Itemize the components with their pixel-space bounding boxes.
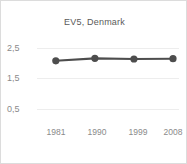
plot-area (1, 1, 187, 164)
data-point-2008 (169, 55, 176, 62)
data-point-1981 (52, 57, 59, 64)
x-axis-tick-1981: 1981 (39, 127, 73, 137)
x-axis-tick-1990: 1990 (80, 127, 114, 137)
data-point-1990 (91, 55, 98, 62)
chart-card: EV5, Denmark 2,5 1,5 0,5 1981 1990 1999 … (0, 0, 187, 164)
data-point-1999 (130, 55, 137, 62)
x-axis-tick-1999: 1999 (121, 127, 155, 137)
data-line (56, 58, 173, 60)
x-axis-tick-2008: 2008 (156, 127, 187, 137)
